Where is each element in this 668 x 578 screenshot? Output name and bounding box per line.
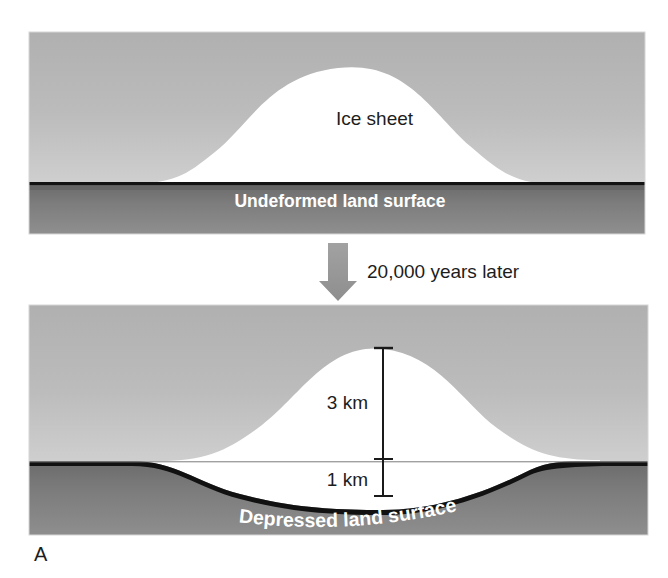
isostasy-figure: Ice sheet Undeformed land surface 20,000… [0,0,668,578]
transition-caption: 20,000 years later [367,261,520,282]
undeformed-surface-label: Undeformed land surface [234,191,445,211]
measure-below-label: 1 km [327,469,368,490]
ice-sheet-label: Ice sheet [336,108,414,129]
depressed-panel [29,305,648,535]
original-level-reference-line [29,461,648,462]
panel-letter-label: A [34,543,48,565]
measure-above-label: 3 km [327,392,368,413]
surface-shadow-top [29,185,645,190]
undeformed-surface-line [29,182,645,185]
